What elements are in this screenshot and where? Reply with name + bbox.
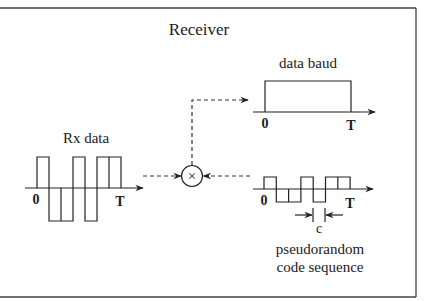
rx-bit-pulses: [37, 157, 121, 221]
pn-end-label: T: [345, 196, 355, 211]
pn-label-line2: code sequence: [276, 259, 363, 275]
pn-start-label: 0: [261, 193, 268, 208]
rx-end-label: T: [115, 194, 125, 209]
baud-end-label: T: [346, 118, 356, 133]
rx-data-label: Rx data: [63, 130, 110, 146]
multiply-icon: ×: [188, 168, 196, 184]
pn-code-waveform: 0 T c pseudorandom code sequence: [253, 177, 373, 275]
chip-width-dimension: [295, 208, 343, 222]
diagram-title: Receiver: [169, 20, 230, 39]
mixer-to-output-arrow: [192, 100, 248, 165]
receiver-diagram: Receiver Rx data 0 T × data baud 0 T 0 T: [0, 0, 426, 301]
data-baud-label: data baud: [279, 55, 337, 71]
pn-label-line1: pseudorandom: [276, 241, 365, 257]
baud-pulse: [265, 81, 351, 112]
rx-start-label: 0: [33, 192, 40, 207]
multiplier-node: ×: [182, 166, 203, 187]
data-baud-waveform: data baud 0 T: [253, 55, 375, 133]
chip-width-label: c: [316, 221, 322, 236]
baud-start-label: 0: [262, 116, 269, 131]
rx-data-waveform: Rx data 0 T: [25, 130, 143, 221]
